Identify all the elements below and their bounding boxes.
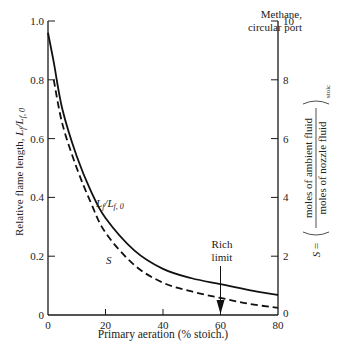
- rich-limit-label: Rich limit: [200, 238, 244, 264]
- left-y-tick-label: 0.8: [30, 74, 44, 86]
- right-y-axis-title: S =moles of ambient fluidmoles of nozzle…: [302, 85, 332, 257]
- rich-limit-line-1: Rich: [200, 238, 244, 251]
- right-paren: [303, 101, 329, 104]
- series-label-flame-length: Lf/Lf, 0: [95, 197, 124, 211]
- rich-limit-line-2: limit: [200, 251, 244, 264]
- right-title-numerator: moles of ambient fluid: [302, 118, 314, 218]
- ticks: [48, 21, 278, 315]
- right-y-tick-label: 2: [283, 250, 289, 262]
- annotation-line-1: Methane,: [212, 8, 302, 21]
- series: [48, 33, 278, 314]
- rich-limit-arrow-icon: [217, 300, 225, 314]
- series-s-curve: [54, 80, 278, 308]
- right-title-prefix: S =: [310, 243, 322, 257]
- right-y-tick-label: 6: [283, 133, 289, 145]
- left-y-axis-title: Relative flame length, Lf/Lf, 0: [13, 108, 27, 236]
- right-y-tick-label: 4: [283, 191, 289, 203]
- axes: [48, 21, 278, 315]
- left-y-tick-label: 0.4: [30, 191, 44, 203]
- left-y-tick-label: 0.2: [30, 250, 44, 262]
- x-axis-title: Primary aeration (% stoich.): [48, 328, 278, 340]
- right-y-tick-label: 8: [283, 74, 289, 86]
- left-y-tick-label: 0.6: [30, 133, 44, 145]
- right-title-subscript: stoic: [324, 85, 332, 98]
- series-label-s: S: [106, 254, 112, 266]
- left-paren: [303, 232, 329, 235]
- annotation-methane: Methane, circular port: [212, 8, 302, 34]
- right-title-denominator: moles of nozzle fluid: [316, 121, 328, 215]
- left-y-tick-label: 1.0: [30, 15, 44, 27]
- labels: 02040608000.20.40.60.81.00246810Lf/Lf, 0…: [13, 15, 332, 331]
- left-y-tick-label: 0: [39, 309, 45, 321]
- annotation-line-2: circular port: [212, 21, 302, 34]
- chart: 02040608000.20.40.60.81.00246810Lf/Lf, 0…: [0, 0, 340, 356]
- right-y-tick-label: 0: [283, 307, 289, 319]
